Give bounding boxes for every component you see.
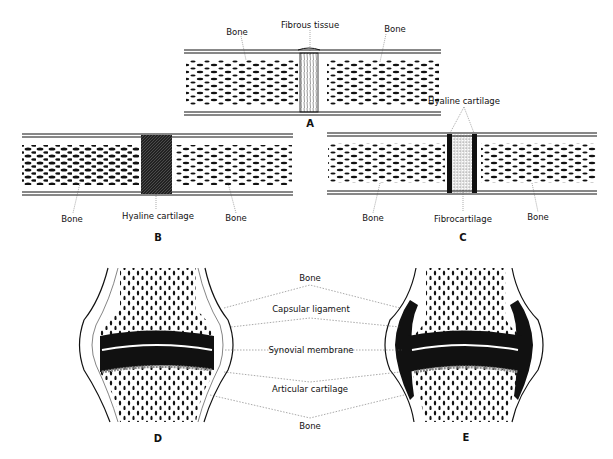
label-c-right-bone: Bone bbox=[527, 212, 549, 222]
label-b-hyaline-cartilage: Hyaline cartilage bbox=[122, 211, 194, 221]
label-b-right-bone: Bone bbox=[225, 213, 247, 223]
panel-c-fibrocartilage-joint bbox=[327, 107, 597, 213]
label-c-fibrocartilage: Fibrocartilage bbox=[434, 214, 492, 224]
label-b-left-bone: Bone bbox=[61, 214, 83, 224]
panel-label-a: A bbox=[306, 118, 314, 129]
panel-a-fibrous-joint bbox=[184, 30, 441, 115]
panel-label-b: B bbox=[154, 232, 162, 243]
panel-label-c: C bbox=[459, 232, 466, 243]
panel-b-hyaline-joint bbox=[22, 134, 293, 213]
panel-e-synovial-joint bbox=[385, 268, 543, 422]
label-articular-cartilage: Articular cartilage bbox=[272, 384, 348, 394]
panel-label-d: D bbox=[154, 433, 162, 444]
label-bone-bottom: Bone bbox=[299, 421, 321, 431]
label-c-hyaline-cartilage: Hyaline cartilage bbox=[428, 96, 500, 106]
label-synovial-membrane: Synovial membrane bbox=[268, 345, 353, 355]
label-bone-top: Bone bbox=[299, 273, 321, 283]
label-c-left-bone: Bone bbox=[362, 213, 384, 223]
label-a-right-bone: Bone bbox=[384, 24, 406, 34]
label-a-left-bone: Bone bbox=[226, 27, 248, 37]
panel-d-synovial-joint bbox=[80, 268, 234, 422]
label-a-fibrous-tissue: Fibrous tissue bbox=[281, 20, 339, 30]
label-capsular-ligament: Capsular ligament bbox=[272, 304, 350, 314]
panel-label-e: E bbox=[463, 432, 470, 443]
